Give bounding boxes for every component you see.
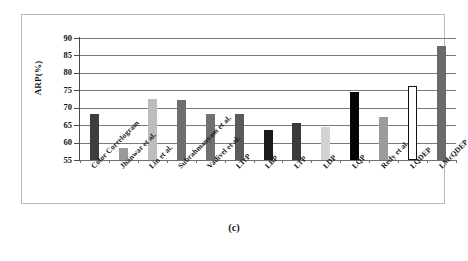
bar: [408, 86, 417, 160]
y-axis-tick-label: 85: [46, 51, 72, 60]
bar: [292, 123, 301, 160]
bar: [437, 46, 446, 160]
x-axis-tick: [167, 160, 168, 163]
y-axis-tick: [74, 73, 79, 74]
gridline: [80, 125, 456, 126]
x-axis-tick: [138, 160, 139, 163]
y-axis-title: ARP(%): [33, 48, 43, 108]
x-axis-tick: [340, 160, 341, 163]
x-axis-tick: [427, 160, 428, 163]
bar: [206, 114, 215, 160]
gridline: [80, 90, 456, 91]
bar: [177, 100, 186, 160]
x-axis-tick: [456, 160, 457, 163]
y-axis-tick: [74, 143, 79, 144]
bar: [379, 117, 388, 160]
gridline: [80, 55, 456, 56]
gridline: [80, 108, 456, 109]
bar: [90, 114, 99, 160]
gridline: [80, 38, 456, 39]
bar: [321, 127, 330, 160]
y-axis-tick-labels: 5560657075808590: [44, 15, 72, 205]
x-axis-tick: [398, 160, 399, 163]
y-axis-tick: [74, 125, 79, 126]
x-axis-tick: [80, 160, 81, 163]
y-axis-tick-label: 55: [46, 156, 72, 165]
x-axis-tick: [196, 160, 197, 163]
x-axis-tick: [225, 160, 226, 163]
x-axis-tick: [311, 160, 312, 163]
bar: [148, 99, 157, 160]
y-axis-tick-label: 65: [46, 121, 72, 130]
plot-area: [80, 38, 456, 160]
y-axis-tick: [74, 90, 79, 91]
y-axis-tick: [74, 108, 79, 109]
y-axis-tick: [74, 160, 79, 161]
x-axis-tick: [282, 160, 283, 163]
gridline: [80, 160, 456, 161]
x-axis-tick: [369, 160, 370, 163]
bar: [119, 148, 128, 160]
y-axis-tick-label: 75: [46, 86, 72, 95]
bar: [350, 92, 359, 160]
x-axis-tick: [109, 160, 110, 163]
x-axis-tick: [254, 160, 255, 163]
y-axis-tick-label: 80: [46, 68, 72, 77]
figure-frame: ARP(%) 5560657075808590: [21, 14, 445, 204]
bar: [235, 114, 244, 160]
bar: [264, 130, 273, 160]
y-axis-tick: [74, 55, 79, 56]
y-axis-tick-label: 90: [46, 34, 72, 43]
y-axis-tick-label: 70: [46, 103, 72, 112]
y-axis-tick-label: 60: [46, 138, 72, 147]
figure-caption: (c): [0, 222, 468, 233]
y-axis-tick: [74, 38, 79, 39]
gridline: [80, 73, 456, 74]
